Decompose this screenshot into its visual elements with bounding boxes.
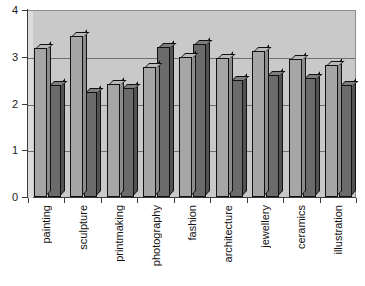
bar-face	[70, 36, 83, 197]
x-tick-mark	[320, 198, 321, 203]
x-axis-category-label: jewellery	[259, 205, 271, 248]
x-axis-category-label: fashion	[186, 205, 198, 240]
bar-group	[320, 11, 356, 197]
bar-cap	[254, 47, 271, 51]
bar-chart: 01234 paintingsculptureprintmakingphotog…	[0, 0, 365, 286]
bar-side	[156, 61, 160, 195]
bar-side	[302, 53, 306, 195]
bar-face	[179, 57, 192, 197]
x-axis-category-label: illustration	[332, 205, 344, 255]
y-tick-label: 1	[12, 145, 18, 156]
bar	[107, 84, 120, 197]
bar-side	[338, 59, 342, 195]
bar-face	[107, 84, 120, 197]
bar-group	[28, 11, 64, 197]
bar-face	[216, 58, 229, 197]
bar-side	[229, 51, 233, 195]
bar-face	[325, 65, 338, 197]
y-tick-label: 4	[12, 5, 18, 16]
bar-side	[206, 38, 210, 195]
bar	[143, 67, 156, 197]
x-tick-mark	[64, 198, 65, 203]
bar-side	[279, 68, 283, 195]
x-axis-category-label: sculpture	[77, 205, 89, 250]
bar	[252, 51, 265, 197]
y-tick-label: 2	[12, 98, 18, 109]
bar-group	[210, 11, 246, 197]
x-axis-category-label: printmaking	[113, 205, 125, 262]
bar-side	[120, 77, 124, 195]
x-tick-mark	[137, 198, 138, 203]
x-axis-category-label: ceramics	[295, 205, 307, 249]
bar-group	[64, 11, 100, 197]
x-axis-category-label: painting	[40, 205, 52, 244]
bar	[325, 65, 338, 197]
y-tick-label: 3	[12, 51, 18, 62]
bars-layer	[28, 11, 355, 197]
bar-face	[289, 59, 302, 197]
bar-face	[34, 48, 47, 197]
x-tick-mark	[174, 198, 175, 203]
bar-group	[137, 11, 173, 197]
bar-side	[61, 78, 65, 195]
y-axis: 01234	[0, 0, 22, 205]
bar	[70, 36, 83, 197]
bar-side	[47, 42, 51, 195]
bar-side	[134, 82, 138, 195]
bar-side	[316, 71, 320, 195]
bar-side	[265, 45, 269, 195]
x-axis-category-label: architecture	[222, 205, 234, 262]
bar-cap	[341, 81, 358, 85]
bar-group	[283, 11, 319, 197]
bar-side	[83, 29, 87, 195]
bar	[179, 57, 192, 197]
x-tick-mark	[247, 198, 248, 203]
bar-cap	[327, 61, 344, 65]
bar-group	[101, 11, 137, 197]
plot-area	[28, 10, 356, 197]
bar	[34, 48, 47, 197]
x-axis-labels: paintingsculptureprintmakingphotographyf…	[0, 205, 365, 286]
bar-side	[243, 74, 247, 195]
bar-group	[174, 11, 210, 197]
bar-face	[143, 67, 156, 197]
bar-side	[192, 50, 196, 195]
x-tick-mark	[356, 198, 357, 203]
x-tick-mark	[283, 198, 284, 203]
x-tick-mark	[28, 198, 29, 203]
x-tick-mark	[210, 198, 211, 203]
x-axis-ticks	[0, 198, 365, 204]
x-tick-mark	[101, 198, 102, 203]
bar-side	[352, 78, 356, 195]
bar-side	[97, 85, 101, 195]
bar	[289, 59, 302, 197]
bar	[216, 58, 229, 197]
bar-group	[247, 11, 283, 197]
bar-side	[170, 41, 174, 195]
bar-face	[252, 51, 265, 197]
x-axis-category-label: photography	[150, 205, 162, 266]
